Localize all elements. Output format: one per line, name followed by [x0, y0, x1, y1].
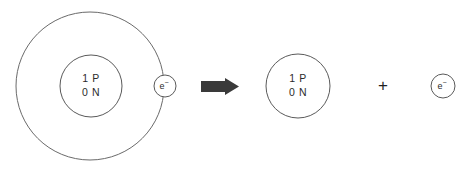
ionization-diagram: 1 P 0 N e− 1 P 0 N + e−	[0, 0, 476, 174]
nucleus-neutron-label: 0 N	[82, 86, 100, 98]
reactant-atom-group: 1 P 0 N e−	[16, 12, 176, 160]
product-proton-label: 1 P	[289, 72, 307, 84]
product-nucleus-group: 1 P 0 N	[266, 54, 330, 118]
electron-charge-sign: −	[164, 79, 168, 86]
product-electron-group: e−	[431, 74, 455, 98]
reaction-arrow	[201, 78, 239, 95]
arrow-right-icon	[201, 78, 239, 95]
free-electron-charge-sign: −	[442, 79, 446, 86]
product-neutron-label: 0 N	[289, 86, 307, 98]
nucleus-proton-label: 1 P	[82, 72, 100, 84]
plus-operator: +	[378, 76, 388, 95]
